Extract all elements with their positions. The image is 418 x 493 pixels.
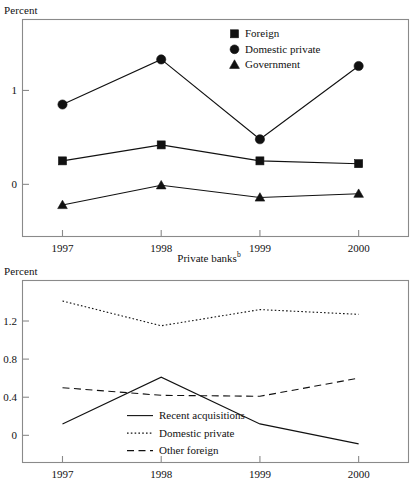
series-line [62, 185, 358, 205]
top-chart-y-tick-labels: 01 [12, 84, 18, 190]
top-chart-plot-area: 01 1997199819992000 ForeignDomestic priv… [0, 0, 418, 262]
bottom-chart-x-tick-labels: 1997199819992000 [51, 468, 370, 480]
bottom-chart-plot-area: 00.40.81.2 1997199819992000 Recent acqui… [0, 262, 418, 493]
data-point-marker [156, 180, 166, 188]
series-line [62, 59, 358, 139]
data-point-marker [58, 157, 66, 165]
legend-label: Government [245, 58, 300, 70]
x-tick-label: 1997 [51, 468, 74, 480]
y-tick-label: 1.2 [3, 315, 17, 327]
series-line [62, 301, 358, 326]
y-tick-label: 0.4 [3, 391, 17, 403]
bottom-chart-series-group [62, 301, 358, 444]
bottom-chart-x-ticks [62, 456, 358, 462]
legend-marker [230, 60, 240, 69]
data-point-marker [256, 157, 264, 165]
figure-root: Percent 01 1997199819992000 ForeignDomes… [0, 0, 418, 493]
legend-marker [230, 45, 239, 54]
data-point-marker [157, 55, 166, 64]
bottom-chart-legend: Recent acquisitionsDomestic privateOther… [127, 409, 245, 456]
top-chart-y-ticks [23, 90, 29, 184]
chart-panel-private-banks: Percent 00.40.81.2 1997199819992000 Rece… [0, 262, 418, 493]
x-tick-label: 1998 [150, 468, 173, 480]
data-point-marker [255, 135, 264, 144]
x-tick-label: 1999 [249, 468, 272, 480]
chart-panel-state-banks: Percent 01 1997199819992000 ForeignDomes… [0, 0, 418, 262]
top-chart-series-group [58, 55, 364, 209]
data-point-marker [58, 100, 67, 109]
bottom-chart-y-ticks [23, 321, 29, 435]
y-tick-label: 0 [12, 429, 18, 441]
legend-label: Domestic private [159, 427, 235, 439]
legend-label: Recent acquisitions [159, 409, 245, 421]
y-tick-label: 0.8 [3, 353, 17, 365]
y-tick-label: 0 [12, 178, 18, 190]
data-point-marker [354, 189, 364, 197]
legend-label: Other foreign [159, 444, 219, 456]
series-line [62, 145, 358, 164]
series-line [62, 378, 358, 396]
top-chart-frame [23, 20, 409, 237]
private-banks-caption-superscript: b [237, 250, 241, 259]
legend-label: Foreign [245, 27, 280, 39]
data-point-marker [157, 141, 165, 149]
bottom-chart-y-tick-labels: 00.40.81.2 [3, 315, 17, 441]
top-chart-legend: ForeignDomestic privateGovernment [230, 27, 321, 70]
x-tick-label: 2000 [348, 468, 371, 480]
data-point-marker [354, 61, 363, 70]
legend-label: Domestic private [245, 43, 321, 55]
top-chart-x-ticks [62, 230, 358, 236]
y-tick-label: 1 [12, 84, 18, 96]
data-point-marker [355, 160, 363, 168]
legend-marker [231, 30, 239, 38]
